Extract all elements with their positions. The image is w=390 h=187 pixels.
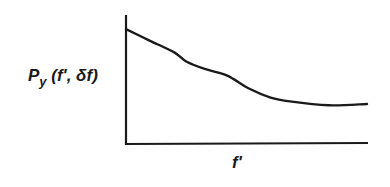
- series-line: [126, 29, 367, 105]
- y-axis-label: Py (f', δf): [28, 66, 98, 86]
- y-axis-label-main: P: [28, 66, 39, 85]
- y-axis-label-subscript: y: [39, 74, 46, 89]
- chart: [0, 0, 390, 187]
- x-axis-label: f': [232, 153, 242, 173]
- x-axis: [125, 143, 368, 144]
- y-axis-label-args: (f', δf): [47, 66, 98, 85]
